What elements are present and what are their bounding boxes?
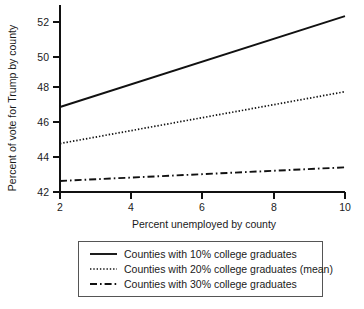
x-tick-label: 4 <box>128 201 134 213</box>
x-tick-label: 6 <box>199 201 205 213</box>
y-tick-label: 44 <box>37 151 49 163</box>
x-axis-title: Percent unemployed by county <box>132 218 277 230</box>
x-tick-label: 2 <box>57 201 63 213</box>
y-tick-label: 52 <box>37 16 49 28</box>
y-tick-label: 46 <box>37 116 49 128</box>
y-tick-label: 50 <box>37 51 49 63</box>
y-tick-label: 48 <box>37 81 49 93</box>
y-tick-label: 42 <box>37 186 49 198</box>
x-tick-label: 10 <box>339 201 351 213</box>
legend-label: Counties with 20% college graduates (mea… <box>124 263 333 275</box>
chart-legend: Counties with 10% college graduates Coun… <box>78 241 333 296</box>
legend-item-20-percent: Counties with 20% college graduates (mea… <box>90 263 333 275</box>
x-tick-label: 8 <box>271 201 277 213</box>
y-axis-title: Percent of vote for Trump by county <box>6 24 18 191</box>
legend-label: Counties with 10% college graduates <box>124 248 297 260</box>
line-chart: 42 44 46 48 50 52 2 4 6 8 10 Percent une… <box>0 0 364 309</box>
legend-label: Counties with 30% college graduates <box>124 278 297 290</box>
chart-figure: 42 44 46 48 50 52 2 4 6 8 10 Percent une… <box>0 0 364 309</box>
